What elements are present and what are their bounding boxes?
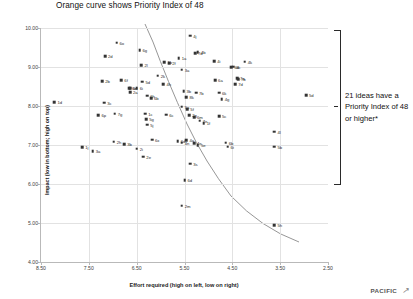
data-point-label: 6t <box>231 144 234 149</box>
data-point[interactable] <box>195 91 198 94</box>
y-tick-mark <box>38 67 41 68</box>
data-point[interactable] <box>146 95 149 98</box>
data-point[interactable] <box>156 74 159 77</box>
data-point[interactable] <box>165 113 168 116</box>
data-point-label: 8k <box>189 95 193 100</box>
data-point[interactable] <box>138 49 141 52</box>
data-point-label: 5h <box>277 223 282 228</box>
data-point-label: 7b <box>199 90 204 95</box>
data-point-label: 6d <box>188 178 193 183</box>
data-point[interactable] <box>142 155 145 158</box>
data-point[interactable] <box>129 87 132 90</box>
y-tick-label: 8.00 <box>28 103 38 109</box>
data-point[interactable] <box>273 145 276 148</box>
data-point[interactable] <box>163 61 166 64</box>
data-point-label: 3b <box>127 142 132 147</box>
data-point-label: 4n <box>185 140 190 145</box>
data-point-label: 5g <box>149 117 154 122</box>
data-point[interactable] <box>141 81 144 84</box>
data-point[interactable] <box>213 60 216 63</box>
data-point[interactable] <box>177 140 180 143</box>
data-point[interactable] <box>214 79 217 82</box>
data-point[interactable] <box>81 146 84 149</box>
data-point-label: 6g <box>143 48 148 53</box>
data-point[interactable] <box>104 55 107 58</box>
data-point[interactable] <box>53 101 56 104</box>
data-point[interactable] <box>180 105 183 108</box>
data-point-label: 1c <box>148 111 152 116</box>
y-tick-label: 7.00 <box>28 142 38 148</box>
y-tick-mark <box>38 223 41 224</box>
data-point[interactable] <box>188 114 191 117</box>
annotation-bracket-nub <box>334 106 338 107</box>
data-point[interactable] <box>146 123 149 126</box>
data-point-label: 7g <box>118 111 123 116</box>
data-point[interactable] <box>97 114 100 117</box>
data-point[interactable] <box>115 42 118 45</box>
data-point[interactable] <box>226 145 229 148</box>
data-point-label: 4l <box>277 129 280 134</box>
x-axis-title: Effort required (high on left, low on ri… <box>40 282 328 288</box>
data-point[interactable] <box>91 150 94 153</box>
y-tick-label: 10.00 <box>25 25 38 31</box>
data-point-label: 5c <box>222 114 226 119</box>
data-point[interactable] <box>140 64 143 67</box>
data-point[interactable] <box>273 224 276 227</box>
data-point[interactable] <box>177 57 180 60</box>
data-point[interactable] <box>103 102 106 105</box>
brand-logo: PACIFIC ↗ <box>371 286 409 295</box>
data-point[interactable] <box>151 138 154 141</box>
data-point[interactable] <box>193 142 196 145</box>
data-point[interactable] <box>182 90 185 93</box>
data-point[interactable] <box>123 143 126 146</box>
data-point[interactable] <box>234 83 237 86</box>
data-point[interactable] <box>202 122 205 125</box>
data-point-label: 4d <box>234 65 239 70</box>
data-point[interactable] <box>194 52 197 55</box>
data-point[interactable] <box>112 141 115 144</box>
data-point[interactable] <box>183 179 186 182</box>
data-point[interactable] <box>305 94 308 97</box>
data-point[interactable] <box>221 98 224 101</box>
data-point[interactable] <box>237 78 240 81</box>
data-point-label: 3b <box>187 89 192 94</box>
data-point[interactable] <box>185 96 188 99</box>
data-point-label: 2a <box>133 89 138 94</box>
data-point-label: 4g <box>225 96 230 101</box>
data-point[interactable] <box>101 80 104 83</box>
x-tick-label: 5.50 <box>180 265 190 271</box>
data-point[interactable] <box>150 97 153 100</box>
data-point[interactable] <box>189 35 192 38</box>
data-point[interactable] <box>230 66 233 69</box>
data-point[interactable] <box>129 91 132 94</box>
data-point[interactable] <box>180 141 183 144</box>
data-point[interactable] <box>145 118 148 121</box>
data-point[interactable] <box>186 108 189 111</box>
data-point-label: 5b <box>277 144 282 149</box>
data-point[interactable] <box>273 130 276 133</box>
data-point[interactable] <box>120 79 123 82</box>
x-tick-label: 3.50 <box>275 265 285 271</box>
data-point[interactable] <box>189 162 192 165</box>
data-point[interactable] <box>224 141 227 144</box>
data-point[interactable] <box>243 60 246 63</box>
data-point[interactable] <box>199 120 202 123</box>
data-point[interactable] <box>180 68 183 71</box>
data-point-label: 1a <box>182 56 187 61</box>
data-point[interactable] <box>197 144 200 147</box>
data-point-label: 1d <box>57 100 62 105</box>
data-point[interactable] <box>180 205 183 208</box>
data-point[interactable] <box>144 113 147 116</box>
data-point[interactable] <box>193 116 196 119</box>
data-point-label: 6x <box>155 137 159 142</box>
annotation-text: 21 ideas have a Priority Index of 48 or … <box>345 90 411 124</box>
data-point[interactable] <box>162 83 165 86</box>
data-point[interactable] <box>168 62 171 65</box>
data-point[interactable] <box>218 91 221 94</box>
y-tick-mark <box>38 106 41 107</box>
x-tick-label: 4.50 <box>227 265 237 271</box>
data-point-label: 4i <box>217 59 220 64</box>
data-point[interactable] <box>218 115 221 118</box>
data-point[interactable] <box>113 113 116 116</box>
data-point[interactable] <box>135 148 138 151</box>
